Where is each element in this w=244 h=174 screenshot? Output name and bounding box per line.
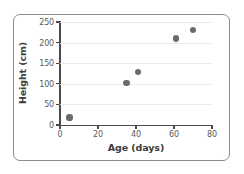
y-axis-tick-mark (56, 21, 60, 22)
gridline-horizontal (60, 43, 212, 44)
plot-area: 050100150200250020406080 (60, 22, 212, 125)
gridline-horizontal (60, 104, 212, 105)
y-axis-tick-mark (56, 63, 60, 64)
x-axis-tick-label: 80 (207, 130, 217, 139)
y-axis-tick-label: 50 (44, 100, 54, 109)
y-axis-tick-mark (56, 83, 60, 84)
x-axis-tick-label: 60 (169, 130, 179, 139)
y-axis-tick-label: 250 (39, 18, 54, 27)
y-axis-tick-label: 200 (39, 38, 54, 47)
data-point (123, 80, 129, 86)
y-axis-tick-label: 100 (39, 79, 54, 88)
data-point (66, 114, 72, 120)
data-point (190, 27, 196, 33)
x-axis-title: Age (days) (60, 142, 212, 153)
gridline-horizontal (60, 63, 212, 64)
y-axis-tick-mark (56, 42, 60, 43)
y-axis-tick-mark (56, 104, 60, 105)
gridline-horizontal (60, 84, 212, 85)
x-axis-tick-mark (97, 125, 98, 129)
x-axis-tick-mark (135, 125, 136, 129)
x-axis-tick-mark (211, 125, 212, 129)
gridline-horizontal (60, 22, 212, 23)
x-axis-tick-mark (59, 125, 60, 129)
x-axis-tick-label: 40 (131, 130, 141, 139)
x-axis-tick-mark (173, 125, 174, 129)
chart-figure: 050100150200250020406080 Height (cm) Age… (0, 0, 244, 174)
y-axis-tick-label: 150 (39, 59, 54, 68)
data-point (135, 69, 141, 75)
x-axis-tick-label: 0 (58, 130, 63, 139)
x-axis-tick-label: 20 (93, 130, 103, 139)
data-point (173, 35, 179, 41)
y-axis-title: Height (cm) (17, 42, 28, 104)
y-axis-tick-label: 0 (49, 121, 54, 130)
